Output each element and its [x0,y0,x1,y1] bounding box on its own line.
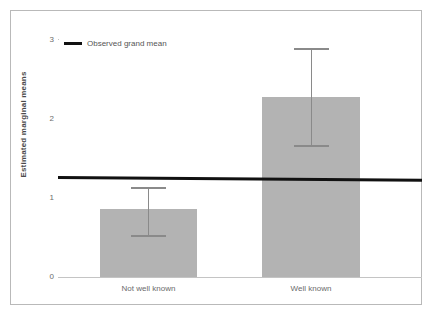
plot-area [58,40,420,277]
chart-figure: Estimated marginal means 3 2 1 0 Observe… [0,0,434,322]
chart-legend: Observed grand mean [64,39,167,48]
error-bar-upper-cap-not-well-known [131,187,166,189]
y-tick-label-3: 3 [40,36,54,44]
y-axis-title: Estimated marginal means [19,40,28,210]
error-bar-lower-cap-not-well-known [131,235,166,237]
y-tick-label-2: 2 [40,115,54,123]
error-bar-stem-well-known [311,48,312,145]
x-axis-line [58,277,422,278]
x-axis-label-not-well-known: Not well known [100,284,197,293]
y-tick-label-0: 0 [40,273,54,281]
error-bar-upper-cap-well-known [294,48,329,50]
y-axis-ticks: 3 2 1 0 [38,0,54,322]
x-axis-label-well-known: Well known [262,284,360,293]
y-tick-label-1: 1 [40,194,54,202]
error-bar-stem-not-well-known [148,187,149,235]
legend-label-observed-grand-mean: Observed grand mean [87,39,167,48]
error-bar-lower-cap-well-known [294,145,329,147]
legend-line-swatch-icon [64,42,82,45]
